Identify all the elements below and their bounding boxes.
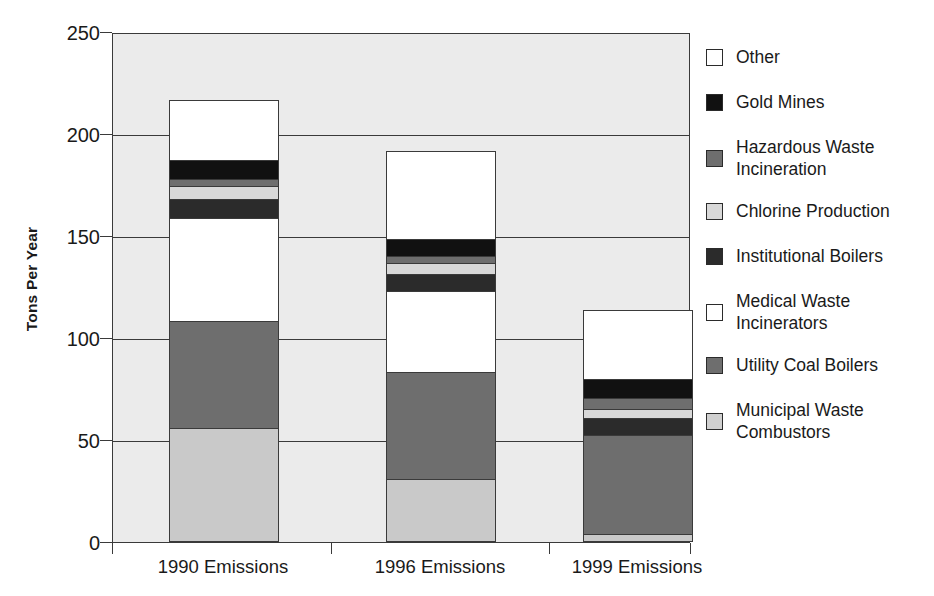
y-tick-label-200: 200 [38, 125, 100, 145]
bar-segment-medical-waste-incinerators [169, 218, 279, 322]
y-tick-label-150: 150 [38, 227, 100, 247]
bar-segment-institutional-boilers [169, 199, 279, 219]
bar-segment-municipal-waste-combustors [169, 428, 279, 542]
bar-segment-other [386, 151, 496, 241]
y-tick-mark-0 [100, 542, 112, 543]
legend-item-label: Institutional Boilers [736, 245, 883, 267]
legend-item-label: Other [736, 46, 780, 68]
legend-item-gold-mines[interactable]: Gold Mines [706, 91, 931, 113]
bar-segment-other [583, 310, 693, 379]
bar-segment-utility-coal-boilers [386, 372, 496, 480]
y-tick-mark-200 [100, 134, 112, 135]
legend-item-label: Hazardous WasteIncineration [736, 136, 874, 180]
legend-item-medical-waste-incinerators[interactable]: Medical WasteIncinerators [706, 290, 931, 334]
bar-1990-emissions [169, 100, 279, 542]
legend-item-label: Gold Mines [736, 91, 825, 113]
x-tick-mark-0 [112, 543, 113, 554]
y-tick-mark-50 [100, 440, 112, 441]
legend-swatch-icon [706, 150, 723, 167]
legend-swatch-icon [706, 94, 723, 111]
chart-root: Tons Per Year 250200150100500 1990 Emiss… [0, 0, 934, 596]
bar-segment-gold-mines [169, 160, 279, 180]
legend-swatch-icon [706, 49, 723, 66]
x-axis-label-1996: 1996 Emissions [330, 556, 550, 578]
legend-item-label: Medical WasteIncinerators [736, 290, 850, 334]
bar-segment-gold-mines [583, 379, 693, 399]
x-tick-mark-2 [549, 543, 550, 554]
bar-segment-utility-coal-boilers [169, 321, 279, 429]
bar-segment-institutional-boilers [583, 418, 693, 436]
bar-segment-institutional-boilers [386, 274, 496, 292]
y-tick-label-50: 50 [38, 431, 100, 451]
bar-segment-utility-coal-boilers [583, 435, 693, 535]
chart-legend: OtherGold MinesHazardous WasteIncinerati… [706, 46, 931, 463]
legend-swatch-icon [706, 203, 723, 220]
bar-1999-emissions [583, 310, 693, 542]
y-axis-ticks: 250200150100500 [30, 0, 100, 596]
bar-segment-municipal-waste-combustors [583, 534, 693, 542]
legend-item-municipal-waste-combustors[interactable]: Municipal WasteCombustors [706, 399, 931, 443]
legend-item-chlorine-production[interactable]: Chlorine Production [706, 200, 931, 222]
legend-swatch-icon [706, 357, 723, 374]
x-axis-label-1999: 1999 Emissions [527, 556, 747, 578]
y-tick-mark-250 [100, 32, 112, 33]
legend-item-institutional-boilers[interactable]: Institutional Boilers [706, 245, 931, 267]
legend-item-other[interactable]: Other [706, 46, 931, 68]
y-tick-label-250: 250 [38, 23, 100, 43]
plot-area [112, 33, 690, 543]
legend-item-label: Utility Coal Boilers [736, 354, 878, 376]
legend-swatch-icon [706, 413, 723, 430]
legend-item-label: Chlorine Production [736, 200, 890, 222]
legend-swatch-icon [706, 304, 723, 321]
x-tick-mark-3 [690, 543, 691, 554]
legend-item-label: Municipal WasteCombustors [736, 399, 864, 443]
y-tick-label-0: 0 [38, 533, 100, 553]
legend-item-utility-coal-boilers[interactable]: Utility Coal Boilers [706, 354, 931, 376]
bar-1996-emissions [386, 151, 496, 542]
y-tick-mark-100 [100, 338, 112, 339]
bar-segment-medical-waste-incinerators [386, 291, 496, 373]
y-tick-mark-150 [100, 236, 112, 237]
legend-swatch-icon [706, 248, 723, 265]
y-tick-label-100: 100 [38, 329, 100, 349]
legend-item-hazardous-waste-incineration[interactable]: Hazardous WasteIncineration [706, 136, 931, 180]
bar-segment-gold-mines [386, 239, 496, 257]
x-axis-label-1990: 1990 Emissions [113, 556, 333, 578]
bar-segment-municipal-waste-combustors [386, 479, 496, 542]
bar-segment-other [169, 100, 279, 161]
x-tick-mark-1 [331, 543, 332, 554]
